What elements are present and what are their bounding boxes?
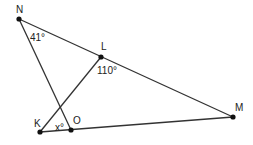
point-k [37,129,42,134]
segment-n-m [19,19,233,117]
label-k: K [34,118,41,129]
label-l: L [101,41,107,52]
label-n: N [16,4,23,15]
point-o [68,127,73,132]
angle-l-label: 110° [97,65,117,76]
segment-k-l [40,57,101,132]
geometry-diagram: N L M K O 41° 110° x° [0,0,253,145]
point-m [230,114,235,119]
point-n [16,16,21,21]
point-l [98,54,103,59]
angle-k-label: x° [55,122,64,133]
label-m: M [235,102,243,113]
angle-n-label: 41° [30,32,45,43]
label-o: O [73,115,81,126]
